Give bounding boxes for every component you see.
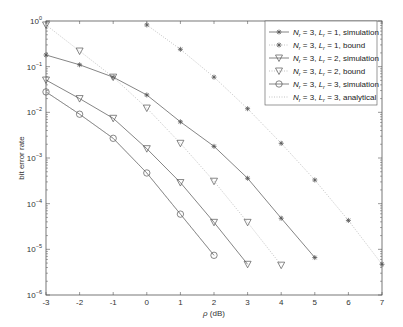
y-tick-label: 10−4	[27, 198, 42, 209]
y-tick-label: 10−3	[27, 152, 42, 163]
x-tick-label: 6	[346, 298, 351, 307]
plot-area: -3-2-10123456710010−110−210−310−410−510−…	[0, 0, 403, 327]
legend-label: Nr = 3, Lr = 1, bound	[293, 41, 365, 51]
legend-label: Nr = 3, Lr = 2, simulation	[293, 54, 379, 64]
legend-label: Nr = 3, Lr = 1, simulation	[293, 28, 379, 38]
y-tick-label: 100	[30, 15, 42, 26]
x-tick-label: 2	[212, 298, 217, 307]
x-tick-label: 0	[145, 298, 150, 307]
y-tick-label: 10−5	[27, 243, 42, 254]
y-tick-label: 10−6	[27, 289, 42, 300]
legend-label: Nr = 3, Lr = 2, bound	[293, 67, 365, 77]
legend-label: Nr = 3, Lr = 3, analytical	[293, 93, 377, 103]
legend-label: Nr = 3, Lr = 3, simulation	[293, 80, 379, 90]
x-tick-label: -2	[76, 298, 84, 307]
y-tick-label: 10−1	[27, 61, 42, 72]
x-tick-label: 7	[380, 298, 385, 307]
x-tick-label: 1	[178, 298, 183, 307]
x-tick-label: 4	[279, 298, 284, 307]
x-tick-label: 5	[313, 298, 318, 307]
x-tick-label: -3	[42, 298, 50, 307]
y-axis-label: bit error rate	[17, 136, 26, 180]
x-tick-label: 3	[245, 298, 250, 307]
x-tick-label: -1	[110, 298, 118, 307]
ber-chart: -3-2-10123456710010−110−210−310−410−510−…	[0, 0, 403, 327]
y-tick-label: 10−2	[27, 106, 42, 117]
x-axis-label: ρ (dB)	[202, 309, 225, 318]
legend: Nr = 3, Lr = 1, simulationNr = 3, Lr = 1…	[265, 21, 379, 105]
